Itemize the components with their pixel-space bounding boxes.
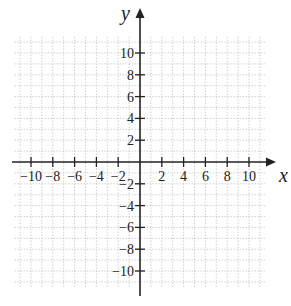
y-tick-label: 10: [120, 46, 134, 61]
x-tick-label: −8: [45, 169, 60, 184]
x-axis-arrow-icon: [266, 158, 276, 167]
coordinate-plane: −10−8−6−4−2246810108642−2−4−6−8−10 x y: [0, 0, 291, 306]
x-tick-label: 8: [224, 169, 231, 184]
x-tick-label: 2: [158, 169, 165, 184]
y-tick-label: 8: [127, 68, 134, 83]
y-tick-label: 4: [127, 111, 134, 126]
y-tick-label: −2: [119, 177, 134, 192]
axes: [12, 8, 276, 296]
x-tick-label: −4: [89, 169, 104, 184]
y-axis-arrow-icon: [136, 8, 145, 18]
x-tick-label: 4: [180, 169, 187, 184]
y-axis-label: y: [119, 2, 130, 25]
x-tick-label: −6: [67, 169, 82, 184]
y-tick-label: 2: [127, 133, 134, 148]
y-tick-label: 6: [127, 90, 134, 105]
x-tick-label: 6: [202, 169, 209, 184]
y-tick-label: −4: [119, 199, 134, 214]
x-tick-label: −10: [20, 169, 42, 184]
y-tick-label: −8: [119, 242, 134, 257]
x-tick-label: 10: [242, 169, 256, 184]
y-tick-label: −10: [112, 264, 134, 279]
y-tick-label: −6: [119, 220, 134, 235]
x-axis-label: x: [278, 164, 288, 186]
